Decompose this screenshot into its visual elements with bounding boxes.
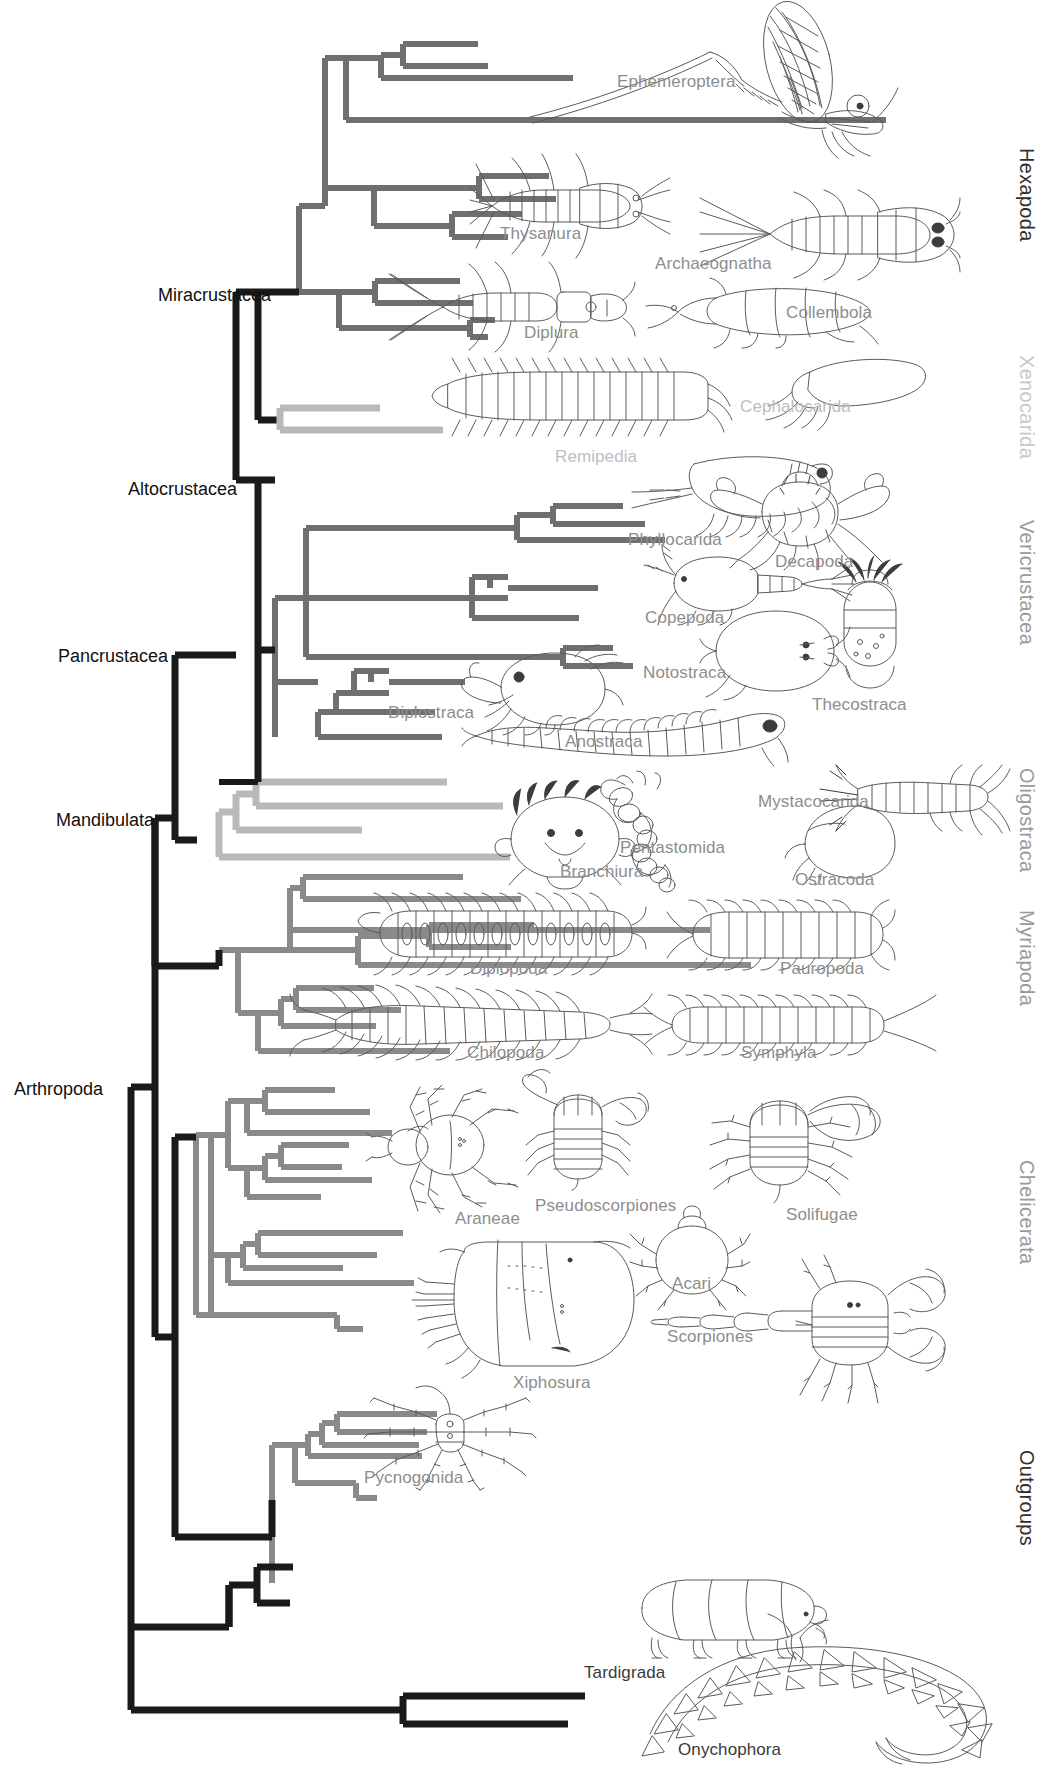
taxon-label-scorpiones: Scorpiones — [667, 1327, 753, 1347]
taxon-label-pycnogonida: Pycnogonida — [364, 1468, 463, 1488]
taxon-label-diplopoda: Diplopoda — [470, 959, 547, 979]
illustration-thecostraca — [812, 570, 922, 695]
illustration-cephalocarida — [718, 350, 928, 430]
illustration-araneae — [348, 1085, 528, 1215]
taxon-label-acari: Acari — [672, 1274, 711, 1294]
taxon-label-diplura: Diplura — [524, 323, 579, 343]
taxon-label-diplostraca: Diplostraca — [388, 703, 474, 723]
taxon-label-anostraca: Anostraca — [565, 732, 642, 752]
taxon-label-solifugae: Solifugae — [786, 1205, 858, 1225]
illustration-ephemeroptera — [530, 22, 900, 167]
illustration-xiphosura — [412, 1240, 642, 1380]
taxon-label-collembola: Collembola — [786, 303, 872, 323]
illustration-pseudoscorpiones — [520, 1085, 650, 1190]
taxon-label-thecostraca: Thecostraca — [812, 695, 907, 715]
group-label-vericrustacea: Vericrustacea — [1015, 520, 1038, 645]
taxon-label-archaeognatha: Archaeognatha — [655, 254, 772, 274]
taxon-label-cephalocarida: Cephalocarida — [740, 397, 851, 417]
taxon-label-pentastomida: Pentastomida — [620, 838, 725, 858]
clade-label-mandibulata: Mandibulata — [56, 810, 154, 831]
taxon-label-thysanura: Thysanura — [500, 224, 581, 244]
clade-label-arthropoda: Arthropoda — [14, 1079, 103, 1100]
taxon-label-remipedia: Remipedia — [555, 447, 637, 467]
group-label-outgroups: Outgroups — [1015, 1450, 1038, 1546]
taxon-label-mystacocarida: Mystacocarida — [758, 792, 869, 812]
taxon-label-pauropoda: Pauropoda — [780, 959, 864, 979]
taxon-label-ostracoda: Ostracoda — [795, 870, 874, 890]
group-label-xenocarida: Xenocarida — [1015, 355, 1038, 459]
taxon-label-araneae: Araneae — [455, 1209, 520, 1229]
taxon-label-branchiura: Branchiura — [560, 862, 643, 882]
taxon-label-phyllocarida: Phyllocarida — [628, 530, 722, 550]
group-label-hexapoda: Hexapoda — [1015, 148, 1038, 242]
illustration-diplura — [385, 262, 635, 352]
clade-label-pancrustacea: Pancrustacea — [58, 646, 168, 667]
taxon-label-xiphosura: Xiphosura — [513, 1373, 590, 1393]
taxon-label-pseudoscorpiones: Pseudoscorpiones — [535, 1196, 676, 1216]
taxon-label-chilopoda: Chilopoda — [467, 1043, 544, 1063]
group-label-chelicerata: Chelicerata — [1015, 1160, 1038, 1264]
taxon-label-copepoda: Copepoda — [645, 608, 724, 628]
taxon-label-symphyla: Symphyla — [741, 1043, 816, 1063]
taxon-label-ephemeroptera: Ephemeroptera — [617, 72, 735, 92]
group-label-myriapoda: Myriapoda — [1015, 910, 1038, 1006]
clade-label-altocrustacea: Altocrustacea — [128, 479, 237, 500]
group-label-oligostraca: Oligostraca — [1015, 768, 1038, 872]
clade-label-miracrustacea: Miracrustacea — [158, 285, 271, 306]
taxon-label-notostraca: Notostraca — [643, 663, 726, 683]
illustration-remipedia — [432, 358, 732, 436]
illustration-solifugae — [700, 1085, 890, 1205]
taxon-label-onychophora: Onychophora — [678, 1740, 781, 1760]
figure-canvas: EphemeropteraThysanuraArchaeognathaDiplu… — [0, 0, 1064, 1768]
taxon-label-tardigrada: Tardigrada — [584, 1663, 665, 1683]
taxon-label-decapoda: Decapoda — [775, 552, 853, 572]
